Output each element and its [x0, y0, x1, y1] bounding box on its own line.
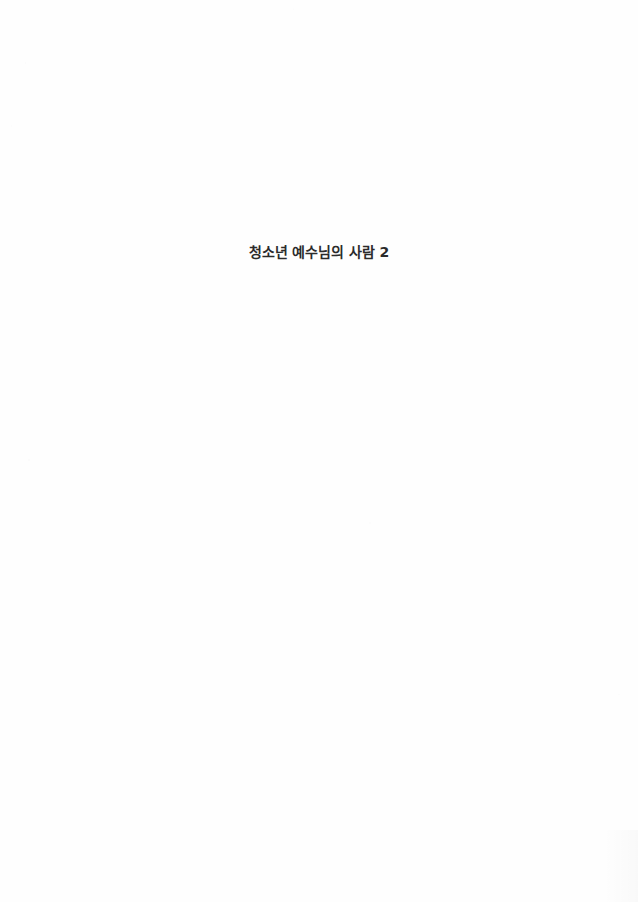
title-block: 청소년 예수님의 사람 2 [0, 243, 638, 261]
scanned-page: 청소년 예수님의 사람 2 [0, 0, 638, 902]
page-title: 청소년 예수님의 사람 2 [249, 243, 389, 261]
